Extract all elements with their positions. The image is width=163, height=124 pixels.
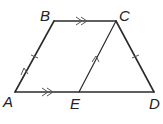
point-label-d: D bbox=[149, 96, 160, 111]
point-label-a: A bbox=[3, 94, 13, 109]
point-label-b: B bbox=[40, 8, 50, 23]
trapezoid-diagram: B C A E D bbox=[0, 0, 163, 124]
segment-ec bbox=[79, 21, 116, 92]
point-label-e: E bbox=[70, 96, 80, 111]
point-label-c: C bbox=[119, 8, 130, 23]
diagram-figure bbox=[0, 0, 163, 124]
